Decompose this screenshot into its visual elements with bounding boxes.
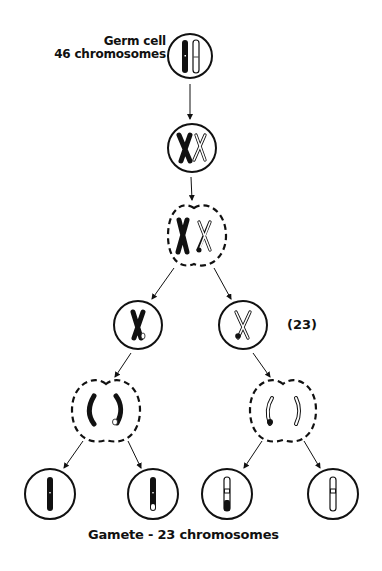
arrow-meiosis-i-right (214, 268, 231, 299)
arrow-to-gamete-1 (64, 441, 83, 468)
meiosis-diagram (0, 0, 382, 571)
germ-cell (168, 34, 212, 78)
gamete-4 (308, 469, 358, 519)
arrow-secondary-left-down (115, 353, 131, 377)
gamete-1 (25, 469, 75, 519)
arrow-to-gamete-3 (244, 441, 262, 468)
arrow-to-gamete-2 (128, 441, 141, 468)
germ-cell-label: Germ cell 46 chromosomes (54, 35, 166, 61)
meiosis-i-cell (168, 205, 226, 265)
gamete-3 (202, 469, 252, 519)
haploid-count-label: (23) (287, 317, 317, 332)
secondary-cell-left (114, 301, 162, 349)
arrow-meiosis-i-left (152, 268, 174, 299)
gamete-label: Gamete - 23 chromosomes (88, 527, 279, 542)
meiosis-ii-cell-right (250, 380, 316, 441)
secondary-cell-right (219, 301, 267, 349)
replicated-cell (168, 124, 216, 172)
gamete-2 (128, 469, 178, 519)
meiosis-ii-cell-left (72, 380, 140, 441)
germ-cell-label-line2: 46 chromosomes (54, 48, 166, 61)
arrow-secondary-right-down (253, 353, 270, 377)
arrow-replicated-to-meiosis-i (191, 177, 192, 200)
arrow-to-gamete-4 (304, 441, 320, 468)
